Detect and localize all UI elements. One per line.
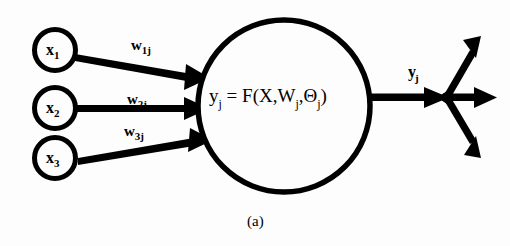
weight-arrow-w3j	[78, 128, 213, 165]
weight-label-w3j: w3j	[124, 124, 144, 139]
output-trunk-arrow	[370, 87, 449, 108]
weight-arrow-w1j	[75, 54, 210, 90]
output-label-yj: yj	[408, 64, 420, 80]
neuron-body-circle	[198, 20, 370, 192]
input-node-x2-label: x2	[46, 100, 60, 116]
input-node-x3-label: x3	[46, 150, 60, 166]
figure-container: x1 x2 x3 w1j w2j w3j yj = F(X,Wj,Θj) yj …	[0, 0, 510, 246]
figure-caption: (a)	[247, 214, 264, 229]
input-node-x1-label: x1	[46, 42, 60, 58]
neuron-formula: yj = F(X,Wj,Θj)	[209, 86, 327, 105]
weight-label-w2j: w2j	[127, 92, 147, 107]
weight-label-w1j: w1j	[131, 38, 151, 53]
neuron-diagram-svg	[0, 0, 510, 246]
